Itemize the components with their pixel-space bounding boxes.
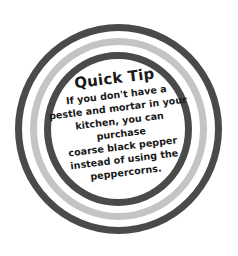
- quick-tip-badge: Quick Tip If you don't have a pestle and…: [44, 62, 196, 187]
- tip-body: If you don't have a pestle and mortar in…: [46, 80, 196, 187]
